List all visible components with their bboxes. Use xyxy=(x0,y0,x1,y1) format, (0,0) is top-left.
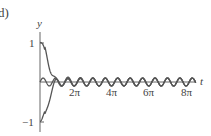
curve-from-minus-one xyxy=(40,78,196,122)
x-axis-label: t xyxy=(200,75,204,87)
curve-from-plus-one xyxy=(40,43,196,87)
x-tick-label-6pi: 6π xyxy=(143,86,155,98)
y-tick-label-1: 1 xyxy=(29,37,35,49)
y-tick-label-neg1: −1 xyxy=(22,116,34,128)
x-ticks: 2π 4π 6π 8π xyxy=(69,86,193,98)
y-axis-label: y xyxy=(36,17,42,29)
x-tick-label-8pi: 8π xyxy=(181,86,193,98)
x-tick-label-4pi: 4π xyxy=(106,86,118,98)
panel-label: d) xyxy=(0,5,9,20)
x-tick-label-2pi: 2π xyxy=(69,86,81,98)
chart: d) y t 1 −1 2π 4π 6π 8π xyxy=(0,0,211,136)
